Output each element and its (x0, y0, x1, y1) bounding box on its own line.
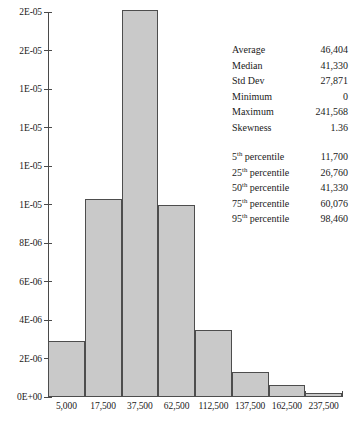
stats-spacer (232, 135, 348, 149)
y-axis-tick: 2E-05 (0, 6, 56, 18)
y-axis-tick-mark (44, 50, 52, 51)
stat-label: Average (232, 42, 265, 58)
x-axis-tick-mark (342, 391, 343, 397)
x-axis-tick-label: 5,000 (56, 400, 77, 412)
stat-value: 41,330 (321, 58, 349, 74)
y-axis-tick-mark (44, 12, 52, 13)
x-axis-tick-label: 37,500 (127, 400, 153, 412)
y-axis-tick-label: 1E-05 (0, 160, 42, 172)
stat-row: 50th percentile41,330 (232, 180, 348, 196)
x-axis-tick-label: 62,500 (164, 400, 190, 412)
x-axis-tick-label: 17,500 (90, 400, 116, 412)
stat-value: 46,404 (321, 42, 349, 58)
x-axis-tick-label: 162,500 (272, 400, 302, 412)
stat-row: 25th percentile26,760 (232, 165, 348, 181)
stat-value: 26,760 (321, 165, 349, 181)
stat-row: Maximum241,568 (232, 104, 348, 120)
y-axis-tick: 4E-06 (0, 314, 56, 326)
percentile-statistics-block: 5th percentile11,70025th percentile26,76… (232, 149, 348, 227)
histogram-bar (195, 330, 232, 397)
y-axis-tick-label: 6E-06 (0, 276, 42, 288)
x-axis-tick-label: 237,500 (309, 400, 339, 412)
x-axis-tick-label: 112,500 (198, 400, 228, 412)
y-axis-tick-label: 2E-06 (0, 353, 42, 365)
stat-row: Std Dev27,871 (232, 73, 348, 89)
histogram-bar (122, 10, 159, 397)
stat-value: 11,700 (321, 149, 348, 165)
percentile-label: 75th percentile (232, 196, 289, 212)
percentile-label: 50th percentile (232, 180, 289, 196)
y-axis-tick-label: 1E-05 (0, 199, 42, 211)
percentile-label: 25th percentile (232, 165, 289, 181)
y-axis-tick-label: 1E-05 (0, 83, 42, 95)
y-axis-tick-mark (44, 204, 52, 205)
percentile-label: 95th percentile (232, 211, 289, 227)
histogram-bar (305, 393, 342, 397)
y-axis-tick-mark (44, 166, 52, 167)
stat-label: Maximum (232, 104, 274, 120)
stat-value: 60,076 (321, 196, 349, 212)
stat-value: 0 (343, 89, 348, 105)
stat-value: 27,871 (321, 73, 349, 89)
histogram-bar (158, 205, 195, 398)
y-axis-tick: 1E-05 (0, 160, 56, 172)
y-axis-tick-mark (44, 89, 52, 90)
stat-value: 1.36 (331, 120, 349, 136)
stat-row: 5th percentile11,700 (232, 149, 348, 165)
histogram-bar (269, 385, 306, 397)
stat-label: Skewness (232, 120, 271, 136)
stat-row: Median41,330 (232, 58, 348, 74)
y-axis-tick-mark (44, 281, 52, 282)
y-axis-tick: 1E-05 (0, 199, 56, 211)
histogram-bar (48, 341, 85, 397)
percentile-label: 5th percentile (232, 149, 284, 165)
y-axis-tick: 2E-05 (0, 45, 56, 57)
stat-row: Minimum0 (232, 89, 348, 105)
y-axis-tick-mark (44, 127, 52, 128)
stat-row: 95th percentile98,460 (232, 211, 348, 227)
y-axis-tick: 1E-05 (0, 83, 56, 95)
histogram-figure: 2E-052E-051E-051E-051E-051E-058E-066E-06… (0, 0, 352, 423)
stat-label: Std Dev (232, 73, 265, 89)
y-axis-tick-label: 2E-05 (0, 6, 42, 18)
y-axis-tick-label: 2E-05 (0, 45, 42, 57)
y-axis-tick: 6E-06 (0, 276, 56, 288)
y-axis-tick-mark (44, 243, 52, 244)
stat-label: Median (232, 58, 263, 74)
y-axis-tick-label: 4E-06 (0, 314, 42, 326)
stat-row: 75th percentile60,076 (232, 196, 348, 212)
y-axis-tick-label: 0E+00 (0, 391, 42, 403)
histogram-bar (85, 199, 122, 397)
stat-value: 241,568 (316, 104, 349, 120)
statistics-panel: Average46,404Median41,330Std Dev27,871Mi… (232, 42, 348, 227)
y-axis-tick-label: 1E-05 (0, 122, 42, 134)
x-axis-tick-label: 137,500 (235, 400, 265, 412)
y-axis-tick: 1E-05 (0, 122, 56, 134)
summary-statistics-block: Average46,404Median41,330Std Dev27,871Mi… (232, 42, 348, 135)
stat-value: 98,460 (321, 211, 349, 227)
y-axis-tick: 8E-06 (0, 237, 56, 249)
stat-row: Skewness1.36 (232, 120, 348, 136)
stat-value: 41,330 (321, 180, 349, 196)
histogram-bar (232, 372, 269, 397)
stat-row: Average46,404 (232, 42, 348, 58)
stat-label: Minimum (232, 89, 272, 105)
y-axis-tick-label: 8E-06 (0, 237, 42, 249)
y-axis-tick-mark (44, 320, 52, 321)
